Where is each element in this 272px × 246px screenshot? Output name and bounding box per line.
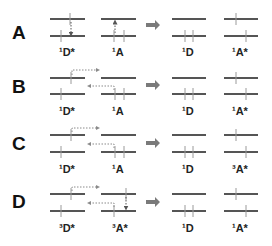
acceptor-after-label: ¹A* — [232, 46, 249, 58]
row-b: B ¹D* ¹A ¹D ¹A* — [12, 70, 258, 117]
donor-before-label: ¹D* — [59, 163, 76, 175]
acceptor-after-c — [224, 129, 258, 158]
donor-before-b — [50, 72, 85, 100]
row-letter-c: C — [12, 133, 26, 154]
donor-after-b — [172, 78, 206, 100]
row-d: D ³D* ³A* ¹D — [12, 187, 258, 234]
donor-before-label: ³D* — [59, 222, 76, 234]
acceptor-before-label: ³A* — [112, 222, 129, 234]
acceptor-after-a — [224, 13, 258, 42]
acceptor-after-b — [224, 72, 258, 100]
acceptor-before-b — [101, 78, 136, 100]
electron-transfer-arrow-icon — [72, 70, 98, 75]
acceptor-before-d — [101, 188, 136, 217]
acceptor-after-d — [224, 188, 258, 217]
donor-after-label: ¹D — [182, 46, 194, 58]
donor-after-label: ¹D — [182, 163, 194, 175]
donor-before-a — [50, 13, 85, 42]
donor-before-label: ¹D* — [59, 46, 76, 58]
acceptor-after-label: ¹A* — [232, 222, 249, 234]
electron-transfer-arrow-icon — [89, 86, 114, 90]
row-letter-d: D — [12, 191, 26, 212]
electron-transfer-arrow-icon — [72, 187, 98, 191]
acceptor-after-label: ¹A* — [232, 105, 249, 117]
acceptor-before-label: ¹A — [112, 105, 124, 117]
donor-after-label: ¹D — [182, 105, 194, 117]
donor-after-c — [172, 135, 206, 158]
donor-after-label: ¹D — [182, 222, 194, 234]
acceptor-before-label: ¹A — [112, 163, 124, 175]
donor-after-d — [172, 194, 206, 217]
right-arrow-icon — [146, 197, 160, 207]
electron-transfer-arrow-icon — [72, 128, 98, 132]
row-a: A ¹D* ¹A ¹D — [12, 13, 258, 58]
donor-after-a — [172, 19, 206, 42]
row-letter-a: A — [12, 22, 26, 43]
donor-before-c — [50, 129, 85, 158]
electron-transfer-arrow-icon — [89, 144, 114, 148]
energy-transfer-diagram: A ¹D* ¹A ¹D — [0, 0, 272, 246]
right-arrow-icon — [146, 138, 160, 148]
acceptor-before-label: ¹A — [112, 46, 124, 58]
electron-transfer-arrow-icon — [89, 203, 114, 207]
acceptor-before-c — [101, 135, 136, 158]
acceptor-after-label: ³A* — [232, 163, 249, 175]
donor-before-label: ¹D* — [59, 105, 76, 117]
donor-before-d — [50, 188, 85, 217]
row-c: C ¹D* ¹A ¹D ³A* — [12, 128, 258, 175]
row-letter-b: B — [12, 76, 26, 97]
right-arrow-icon — [146, 20, 160, 30]
right-arrow-icon — [146, 80, 160, 90]
acceptor-before-a — [101, 19, 136, 42]
